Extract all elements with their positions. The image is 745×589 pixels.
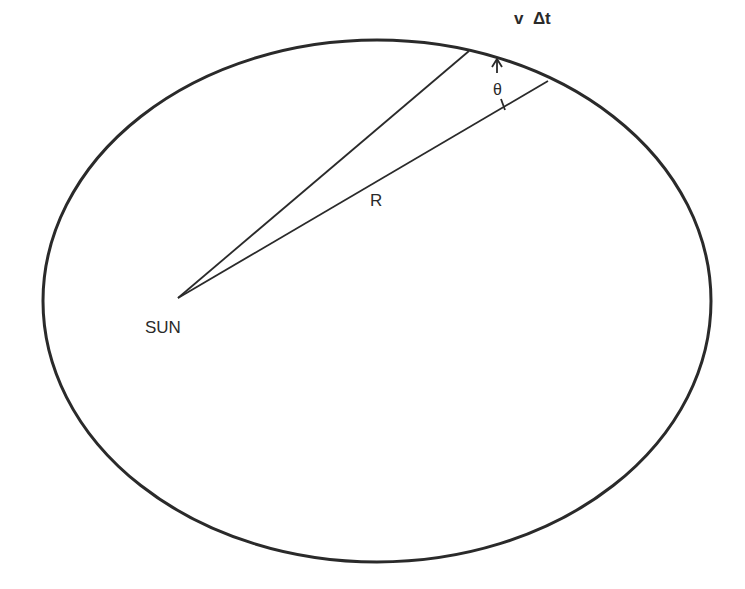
- arc-arrow-icon: [492, 59, 502, 73]
- radius-line-r: [178, 81, 548, 298]
- radius-label: R: [370, 191, 382, 210]
- radius-line-first: [178, 51, 469, 298]
- arc-length-label: v Δt: [514, 9, 551, 28]
- sun-label: SUN: [145, 318, 181, 337]
- orbit-ellipse: [43, 40, 711, 562]
- angle-label: θ: [493, 81, 502, 98]
- orbit-diagram: SUN R θ v Δt: [0, 0, 745, 589]
